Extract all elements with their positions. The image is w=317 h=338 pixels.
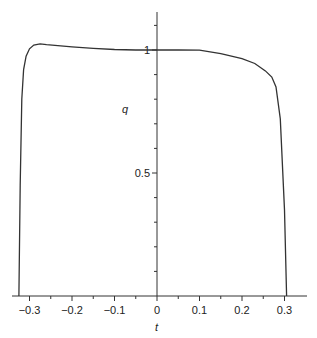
x-tick-label: 0.3 bbox=[277, 304, 292, 316]
data-curve bbox=[19, 44, 287, 296]
chart: −0.3−0.2−0.100.10.20.3 0.51 t q bbox=[0, 0, 317, 338]
x-tick-label: −0.1 bbox=[104, 304, 126, 316]
x-tick-label: 0.1 bbox=[192, 304, 207, 316]
x-tick-label: 0 bbox=[154, 304, 160, 316]
x-tick-label: −0.2 bbox=[61, 304, 83, 316]
x-axis-label: t bbox=[155, 321, 159, 333]
y-axis: 0.51 bbox=[135, 12, 157, 296]
y-tick-label: 0.5 bbox=[135, 167, 150, 179]
y-axis-label: q bbox=[122, 103, 129, 115]
x-tick-label: −0.3 bbox=[19, 304, 41, 316]
x-axis: −0.3−0.2−0.100.10.20.3 bbox=[12, 296, 307, 316]
x-tick-label: 0.2 bbox=[234, 304, 249, 316]
